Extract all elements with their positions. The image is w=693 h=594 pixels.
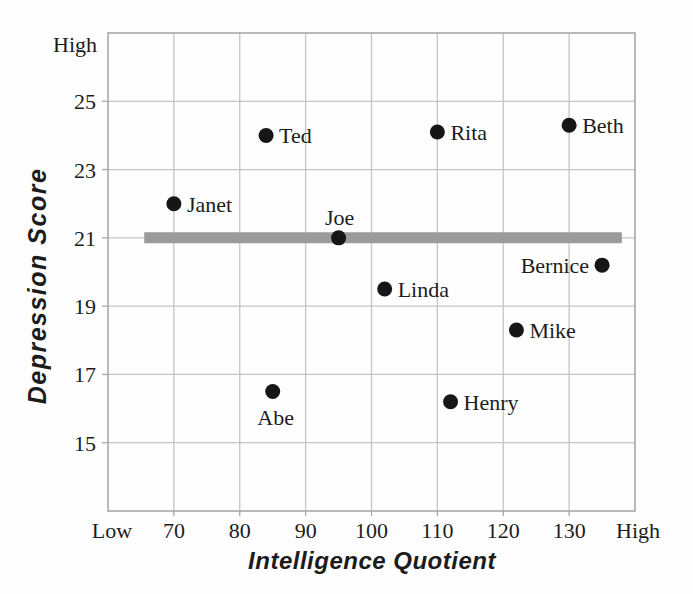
x-axis-low-label: Low — [92, 518, 132, 543]
point-label: Rita — [450, 120, 487, 145]
x-tick-label: 90 — [295, 518, 317, 543]
y-tick-label: 15 — [74, 431, 96, 456]
y-axis-high-label: High — [53, 32, 97, 57]
y-tick-label: 21 — [74, 226, 96, 251]
x-tick-label: 120 — [487, 518, 520, 543]
x-tick-label: 130 — [553, 518, 586, 543]
point-label: Linda — [398, 277, 450, 302]
data-point — [259, 128, 274, 143]
y-tick-label: 25 — [74, 89, 96, 114]
scatter-plot-figure: JanetTedJoeAbeLindaRitaHenryMikeBethBern… — [0, 0, 693, 594]
data-point — [509, 323, 524, 338]
y-tick-label: 19 — [74, 294, 96, 319]
data-point — [265, 384, 280, 399]
point-label: Beth — [582, 113, 624, 138]
x-axis-title: Intelligence Quotient — [248, 547, 496, 574]
y-tick-label: 17 — [74, 362, 96, 387]
data-point — [377, 282, 392, 297]
x-axis-high-label: High — [616, 518, 660, 543]
y-axis-title: Depression Score — [23, 168, 51, 405]
data-point — [166, 196, 181, 211]
data-point — [562, 118, 577, 133]
point-label: Abe — [257, 405, 294, 430]
data-point — [331, 230, 346, 245]
data-point — [430, 125, 445, 140]
point-label: Henry — [464, 390, 519, 415]
x-tick-label: 110 — [421, 518, 453, 543]
point-labels-layer: JanetTedJoeAbeLindaRitaHenryMikeBethBern… — [187, 113, 624, 429]
data-point — [595, 258, 610, 273]
depression-vs-iq-scatter-chart: JanetTedJoeAbeLindaRitaHenryMikeBethBern… — [0, 0, 693, 594]
point-label: Joe — [325, 205, 354, 230]
point-label: Bernice — [521, 253, 589, 278]
point-label: Ted — [279, 123, 312, 148]
y-tick-label: 23 — [74, 158, 96, 183]
point-label: Mike — [529, 318, 575, 343]
x-tick-label: 80 — [229, 518, 251, 543]
x-tick-label: 100 — [355, 518, 388, 543]
tick-layer — [102, 101, 569, 516]
x-tick-label: 70 — [163, 518, 185, 543]
point-label: Janet — [187, 192, 232, 217]
data-point — [443, 394, 458, 409]
